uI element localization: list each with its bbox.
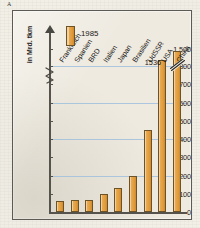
y-tick-mark-200 bbox=[49, 176, 53, 177]
bar-spanien bbox=[71, 200, 79, 212]
bar-china bbox=[173, 51, 181, 212]
y-tick-mark-0 bbox=[49, 212, 53, 213]
y-tick-mark-400 bbox=[49, 139, 53, 140]
corner-plate-marker: A bbox=[7, 1, 12, 7]
bar-udssr bbox=[144, 130, 152, 212]
category-label-japan: Japan bbox=[116, 43, 134, 64]
y-axis-arrowhead-icon bbox=[45, 25, 55, 33]
y-tick-mark-1500 bbox=[49, 49, 53, 50]
y-tick-mark-800 bbox=[49, 66, 53, 67]
figure-page: A in Mrd. tkm 01002003004005006007008001… bbox=[0, 0, 200, 228]
chart-plate: in Mrd. tkm 01002003004005006007008001 5… bbox=[12, 10, 192, 220]
y-tick-mark-100 bbox=[49, 194, 53, 195]
bar-usa bbox=[158, 60, 166, 212]
y-tick-mark-600 bbox=[49, 103, 53, 104]
legend-label-1985: 1985 bbox=[81, 29, 98, 38]
y-tick-mark-700 bbox=[49, 84, 53, 85]
y-tick-mark-300 bbox=[49, 157, 53, 158]
y-axis-line bbox=[49, 31, 51, 213]
bar-frankreich bbox=[56, 201, 64, 212]
legend-swatch-1985 bbox=[66, 26, 75, 46]
bar-brasilien bbox=[129, 176, 137, 213]
category-label-italien: Italien bbox=[101, 44, 119, 64]
bar-japan bbox=[114, 188, 122, 212]
bar-brd bbox=[85, 200, 93, 212]
y-tick-mark-500 bbox=[49, 121, 53, 122]
bar-italien bbox=[100, 194, 108, 212]
axis-break-zigzag-icon bbox=[44, 67, 56, 84]
china-value-label: 1536 bbox=[145, 58, 161, 67]
y-axis-label: in Mrd. tkm bbox=[26, 16, 33, 74]
